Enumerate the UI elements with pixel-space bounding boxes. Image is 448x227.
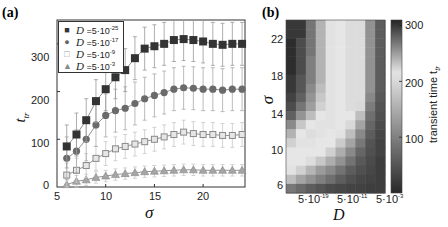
panel-b-ytick: 6: [277, 179, 283, 191]
panel-a-xtick: 15: [149, 190, 161, 202]
panel-b-ylabel: σ: [258, 96, 278, 104]
colorbar-tick: 300: [405, 19, 423, 31]
panel-b-xlabel: D: [333, 206, 345, 224]
panel-a-ylabel: ttr: [12, 112, 31, 122]
legend-text: =5·10: [84, 50, 110, 60]
legend-text: =5·10: [84, 26, 110, 36]
panel-a-ylabel-sub: tr: [21, 112, 31, 118]
open-square-icon: □: [63, 49, 71, 59]
legend-var: D: [76, 48, 84, 60]
filled-circle-icon: ●: [63, 37, 71, 47]
panel-a-legend: ■ D =5·10-25 ● D =5·10-17 □ D =5·10-9 ▲ …: [58, 21, 124, 73]
legend-var: D: [76, 36, 84, 48]
panel-b-ytick: 10: [271, 144, 283, 156]
legend-item: ■ D =5·10-25: [63, 24, 118, 36]
legend-var: D: [76, 24, 84, 36]
panel-a-xlabel: σ: [145, 203, 153, 223]
panel-b-xtick: 5·10-19: [298, 193, 329, 205]
legend-var: D: [76, 60, 84, 72]
colorbar-label: transient time ttr: [427, 66, 442, 143]
filled-square-icon: ■: [63, 25, 71, 35]
panel-b-ytick: 18: [271, 70, 283, 82]
panel-a-xtick: 5: [54, 190, 60, 202]
panel-a-xtick: 10: [100, 190, 112, 202]
legend-item: □ D =5·10-9: [63, 48, 115, 60]
panel-b-ytick: 14: [271, 108, 283, 120]
panel-a-ytick: 300: [31, 51, 49, 63]
panel-a-ytick: 0: [43, 179, 49, 191]
legend-item: ● D =5·10-17: [63, 36, 118, 48]
legend-text: =5·10: [84, 62, 110, 72]
legend-exp: -25: [110, 25, 119, 31]
heatmap: [286, 20, 386, 194]
panel-b-ytick: 22: [271, 33, 283, 45]
panel-a-ytick: 100: [31, 137, 49, 149]
legend-text: =5·10: [84, 38, 110, 48]
legend-item: ▲ D =5·10-3: [63, 60, 115, 72]
colorbar-tick: 200: [405, 77, 423, 89]
legend-exp: -3: [110, 61, 115, 67]
legend-exp: -17: [110, 37, 119, 43]
panel-b-xtick: 5·10-3: [376, 193, 403, 205]
panel-b-xtick: 5·10-11: [337, 193, 367, 205]
colorbar: [391, 20, 402, 193]
legend-exp: -9: [110, 49, 115, 55]
triangle-icon: ▲: [63, 61, 71, 71]
colorbar-tick: 100: [405, 133, 423, 145]
panel-a-ytick: 200: [31, 94, 49, 106]
panel-a-ylabel-main: t: [12, 118, 28, 122]
panel-a-xtick: 20: [197, 190, 209, 202]
